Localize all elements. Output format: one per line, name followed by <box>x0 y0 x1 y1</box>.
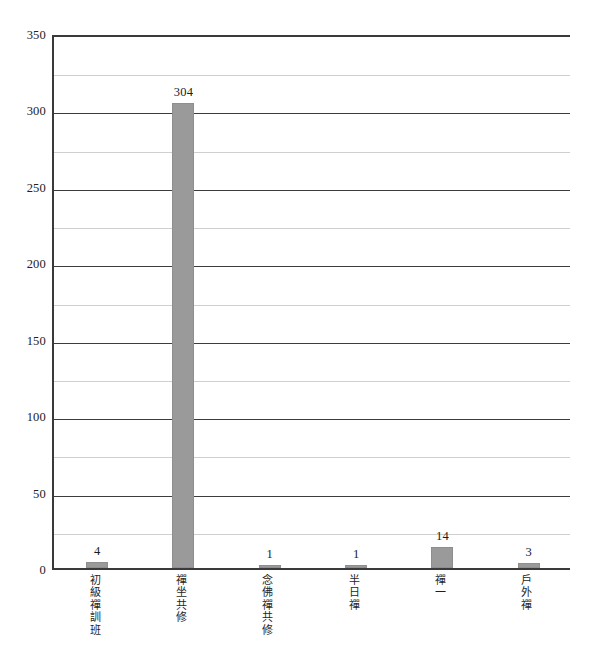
y-axis-tick-label: 350 <box>2 29 46 41</box>
y-axis-tick-label: 100 <box>2 411 46 423</box>
y-axis-tick-label: 50 <box>2 488 46 500</box>
y-axis-tick-label: 0 <box>2 564 46 576</box>
bar-value-label: 3 <box>526 546 532 558</box>
x-axis-category-label: 禪一 <box>434 575 447 600</box>
x-axis-category-label: 禪坐共修 <box>175 575 188 625</box>
bar[interactable] <box>86 562 108 568</box>
x-axis-category-slot: 半日禪 <box>311 575 397 655</box>
bar[interactable] <box>518 563 540 568</box>
y-axis-tick-label: 150 <box>2 335 46 347</box>
bar[interactable] <box>259 565 281 568</box>
x-axis-category-slot: 初級禪訓班 <box>52 575 138 655</box>
bar-chart: 050100150200250300350 430411143 初級禪訓班禪坐共… <box>0 0 600 657</box>
x-axis-category-slot: 禪一 <box>397 575 483 655</box>
bar[interactable] <box>345 565 367 568</box>
bar-value-label: 304 <box>174 86 193 98</box>
y-axis-tick-label: 250 <box>2 182 46 194</box>
x-axis-category-label: 戶外禪 <box>520 575 533 612</box>
bar-slot: 4 <box>54 37 140 568</box>
bars-layer: 430411143 <box>54 37 570 568</box>
x-axis-category-label: 念佛禪共修 <box>261 575 274 637</box>
x-axis-category-slot: 念佛禪共修 <box>225 575 311 655</box>
x-axis-category-slot: 禪坐共修 <box>138 575 224 655</box>
bar-value-label: 4 <box>94 545 100 557</box>
bar[interactable] <box>172 103 194 568</box>
x-axis-category-slot: 戶外禪 <box>484 575 570 655</box>
y-axis-tick-labels: 050100150200250300350 <box>0 35 46 570</box>
bar[interactable] <box>431 547 453 568</box>
x-axis-category-label: 半日禪 <box>348 575 361 612</box>
bar-slot: 14 <box>399 37 485 568</box>
x-axis-category-label: 初級禪訓班 <box>89 575 102 637</box>
y-axis-tick-label: 200 <box>2 258 46 270</box>
y-axis-tick-label: 300 <box>2 105 46 117</box>
bar-value-label: 1 <box>353 548 359 560</box>
bar-slot: 1 <box>313 37 399 568</box>
plot-area: 430411143 <box>52 35 570 570</box>
bar-slot: 3 <box>486 37 572 568</box>
bar-slot: 1 <box>227 37 313 568</box>
bar-value-label: 1 <box>267 548 273 560</box>
bar-slot: 304 <box>140 37 226 568</box>
x-axis-category-labels: 初級禪訓班禪坐共修念佛禪共修半日禪禪一戶外禪 <box>52 575 570 655</box>
bar-value-label: 14 <box>436 530 449 542</box>
